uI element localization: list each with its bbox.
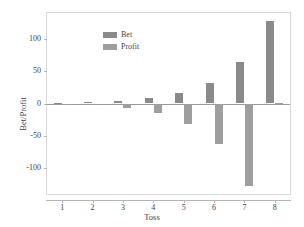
x-tick-label: 6 (202, 203, 226, 212)
bar-bet-7 (236, 62, 244, 103)
x-axis-title: Toss (0, 212, 304, 222)
y-tick-mark (44, 39, 47, 40)
x-tick-label: 7 (232, 203, 256, 212)
y-tick-mark (44, 71, 47, 72)
bar-profit-4 (154, 104, 162, 114)
x-tick-label: 5 (172, 203, 196, 212)
y-tick-mark (44, 168, 47, 169)
bar-profit-5 (184, 104, 192, 124)
legend-swatch-profit (103, 44, 117, 50)
x-tick-label: 1 (50, 203, 74, 212)
chart-legend: Bet Profit (103, 31, 139, 51)
x-axis-line (46, 200, 291, 201)
x-tick-mark (184, 200, 185, 203)
y-tick-label: 50 (1, 67, 47, 75)
x-tick-mark (123, 200, 124, 203)
x-tick-mark (214, 200, 215, 203)
legend-item-bet: Bet (103, 31, 139, 39)
chart-figure: 100500-50-100 Bet Profit 12345678 Toss B… (0, 0, 304, 227)
bar-bet-6 (206, 83, 214, 104)
y-tick-label: 100 (1, 35, 47, 43)
bar-profit-2 (93, 104, 101, 106)
legend-label-profit: Profit (121, 43, 139, 51)
x-tick-mark (93, 200, 94, 203)
y-tick-mark (44, 104, 47, 105)
y-axis-title: Bet/Profit (18, 97, 28, 131)
bar-bet-2 (84, 102, 92, 103)
zero-baseline (47, 104, 290, 105)
bar-profit-1 (63, 104, 71, 105)
bar-bet-5 (175, 93, 183, 103)
legend-swatch-bet (103, 32, 117, 38)
x-tick-label: 8 (263, 203, 287, 212)
y-tick-label: -50 (1, 132, 47, 140)
x-tick-mark (244, 200, 245, 203)
y-tick-mark (44, 136, 47, 137)
bar-bet-4 (145, 98, 153, 103)
bar-bet-1 (54, 103, 62, 104)
y-tick-label: -100 (1, 164, 47, 172)
x-tick-mark (62, 200, 63, 203)
bar-profit-7 (245, 104, 253, 186)
plot-area: 100500-50-100 (47, 13, 290, 194)
x-tick-label: 3 (111, 203, 135, 212)
bar-bet-8 (266, 21, 274, 104)
x-tick-mark (275, 200, 276, 203)
bar-profit-8 (275, 103, 283, 104)
plot-frame: 100500-50-100 Bet Profit (46, 12, 291, 195)
bar-profit-3 (123, 104, 131, 109)
x-tick-label: 4 (141, 203, 165, 212)
x-tick-mark (153, 200, 154, 203)
legend-item-profit: Profit (103, 43, 139, 51)
x-tick-label: 2 (81, 203, 105, 212)
legend-label-bet: Bet (121, 31, 132, 39)
bar-bet-3 (114, 101, 122, 104)
bar-profit-6 (215, 104, 223, 145)
